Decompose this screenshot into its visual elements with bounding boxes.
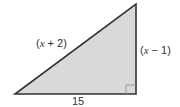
- base-label: 15: [72, 95, 84, 107]
- hypotenuse-label: (x + 2): [36, 37, 67, 49]
- vertical-leg-label: (x − 1): [140, 44, 171, 56]
- triangle: [15, 4, 136, 94]
- right-triangle-diagram: (x + 2) (x − 1) 15: [0, 0, 180, 107]
